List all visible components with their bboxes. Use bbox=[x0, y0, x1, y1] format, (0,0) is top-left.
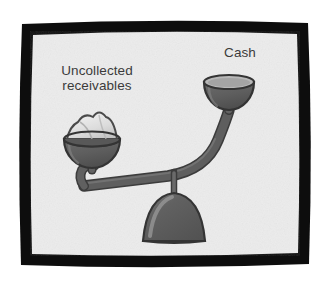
scale-illustration: Uncollected receivables Cash bbox=[0, 0, 329, 281]
label-cash: Cash bbox=[200, 46, 280, 61]
label-uncollected-receivables: Uncollected receivables bbox=[38, 64, 156, 93]
scale-scene-graphic bbox=[0, 0, 329, 281]
